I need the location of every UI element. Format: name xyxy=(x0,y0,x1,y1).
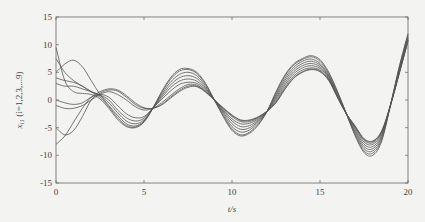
y-axis-ticks: 151050-5-10-15 xyxy=(40,12,408,188)
y-tick-label: -5 xyxy=(45,123,53,133)
x-tick-label: 15 xyxy=(316,187,326,197)
line-chart: 151050-5-10-15 05101520 t/s xi1 (i=1,2,3… xyxy=(0,0,425,222)
x-tick-label: 0 xyxy=(54,187,59,197)
x-axis-label: t/s xyxy=(228,204,237,214)
x-tick-label: 10 xyxy=(228,187,238,197)
y-tick-label: 0 xyxy=(48,95,53,105)
y-axis-label: xi1 (i=1,2,3,...9) xyxy=(14,72,26,130)
x-tick-label: 5 xyxy=(142,187,147,197)
y-tick-label: 5 xyxy=(48,67,53,77)
y-tick-label: 10 xyxy=(43,40,53,50)
series-line-x-71 xyxy=(56,40,408,143)
y-tick-label: -10 xyxy=(40,150,52,160)
y-tick-label: 15 xyxy=(43,12,53,22)
x-tick-label: 20 xyxy=(404,187,414,197)
series-line-x-11 xyxy=(56,34,408,157)
y-tick-label: -15 xyxy=(40,178,52,188)
data-series-group xyxy=(56,34,408,157)
